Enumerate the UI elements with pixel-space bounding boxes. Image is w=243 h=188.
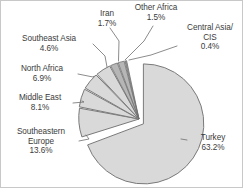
slice-label-southeast-asia: Southeast Asia 4.6% <box>9 34 89 53</box>
slice-label-southeastern-europe-value: 13.6% <box>5 146 77 156</box>
slice-label-iran-name: Iran <box>100 9 114 18</box>
slice-label-other-africa-value: 1.5% <box>125 13 187 23</box>
slice-label-central-asia-cis-name-line1: Central Asia/ <box>187 23 233 32</box>
slice-label-middle-east-name: Middle East <box>19 93 61 102</box>
pie-chart-figure: Iran 1.7% Other Africa 1.5% Central Asia… <box>0 0 243 188</box>
slice-label-other-africa-name: Other Africa <box>135 3 178 12</box>
slice-label-turkey: Turkey 63.2% <box>189 133 237 152</box>
slice-label-north-africa: North Africa 6.9% <box>9 64 75 83</box>
slice-label-southeastern-europe-name-line2: Europe <box>5 137 77 147</box>
slice-label-southeast-asia-value: 4.6% <box>9 44 89 54</box>
leader-line-other-africa <box>125 26 153 60</box>
slice-label-other-africa: Other Africa 1.5% <box>125 3 187 22</box>
slice-label-southeastern-europe-name-line1: Southeastern <box>17 127 65 136</box>
leader-line-southeast-asia <box>93 44 107 67</box>
slice-label-central-asia-cis-value: 0.4% <box>178 42 242 52</box>
slice-label-middle-east-value: 8.1% <box>9 103 71 113</box>
leader-line-iran <box>110 28 119 61</box>
slice-label-southeast-asia-name: Southeast Asia <box>22 34 76 43</box>
slice-label-turkey-name: Turkey <box>201 133 225 142</box>
slice-label-middle-east: Middle East 8.1% <box>9 93 71 112</box>
slice-label-iran-value: 1.7% <box>85 19 129 29</box>
pie-slices <box>79 61 204 184</box>
slice-label-turkey-value: 63.2% <box>189 143 237 153</box>
slice-label-southeastern-europe: Southeastern Europe 13.6% <box>5 127 77 156</box>
slice-label-north-africa-value: 6.9% <box>9 74 75 84</box>
leader-line-central-asia-cis <box>129 46 177 60</box>
slice-label-iran: Iran 1.7% <box>85 9 129 28</box>
slice-label-north-africa-name: North Africa <box>21 64 63 73</box>
slice-label-central-asia-cis-name-line2: CIS <box>178 33 242 43</box>
slice-label-central-asia-cis: Central Asia/ CIS 0.4% <box>178 23 242 52</box>
leader-line-north-africa <box>78 74 94 77</box>
